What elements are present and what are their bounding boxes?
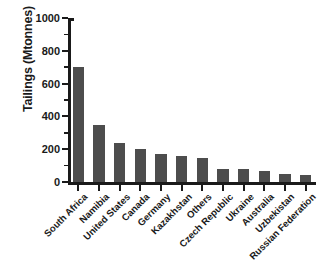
y-tick-label: 800 bbox=[42, 45, 60, 57]
bar bbox=[197, 158, 209, 182]
bar bbox=[135, 149, 147, 182]
y-tick-major bbox=[62, 17, 68, 19]
y-tick-major bbox=[62, 115, 68, 117]
x-tick bbox=[305, 185, 307, 191]
x-tick bbox=[77, 185, 79, 191]
plot-area: 02004006008001000 bbox=[68, 18, 316, 182]
y-tick-minor bbox=[64, 34, 68, 36]
y-axis-line bbox=[68, 18, 71, 182]
y-axis-top-cap bbox=[68, 18, 74, 21]
y-tick-minor bbox=[64, 165, 68, 167]
y-tick-label: 1000 bbox=[36, 12, 60, 24]
bar bbox=[176, 156, 188, 182]
y-tick-major bbox=[62, 148, 68, 150]
bar bbox=[73, 67, 85, 182]
bar bbox=[259, 171, 271, 182]
y-tick-major bbox=[62, 50, 68, 52]
bar bbox=[217, 169, 229, 182]
x-tick bbox=[284, 185, 286, 191]
bar bbox=[300, 175, 312, 182]
x-tick bbox=[119, 185, 121, 191]
bar bbox=[93, 125, 105, 182]
x-tick bbox=[201, 185, 203, 191]
x-tick bbox=[139, 185, 141, 191]
x-tick bbox=[160, 185, 162, 191]
y-axis-title: Tailings (Mtonnes) bbox=[21, 0, 35, 139]
bar bbox=[279, 174, 291, 182]
y-tick-label: 400 bbox=[42, 110, 60, 122]
bar bbox=[155, 154, 167, 182]
x-tick bbox=[98, 185, 100, 191]
y-tick-minor bbox=[64, 99, 68, 101]
y-tick-label: 0 bbox=[54, 176, 60, 188]
x-tick bbox=[222, 185, 224, 191]
y-tick-minor bbox=[64, 66, 68, 68]
x-tick bbox=[263, 185, 265, 191]
x-tick bbox=[181, 185, 183, 191]
y-tick-minor bbox=[64, 132, 68, 134]
bar bbox=[114, 143, 126, 182]
x-tick bbox=[243, 185, 245, 191]
y-tick-label: 200 bbox=[42, 143, 60, 155]
x-axis-line bbox=[68, 182, 316, 185]
bar-chart-figure: Tailings (Mtonnes) 02004006008001000 Sou… bbox=[0, 0, 331, 278]
y-tick-label: 600 bbox=[42, 78, 60, 90]
y-tick-major bbox=[62, 83, 68, 85]
bar bbox=[238, 169, 250, 182]
y-tick-major bbox=[62, 181, 68, 183]
